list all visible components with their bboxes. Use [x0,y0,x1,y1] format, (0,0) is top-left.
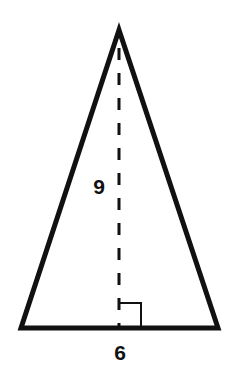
triangle-diagram [0,0,247,385]
base-label: 6 [114,342,126,363]
right-angle-marker [119,303,141,328]
height-label: 9 [93,176,105,197]
